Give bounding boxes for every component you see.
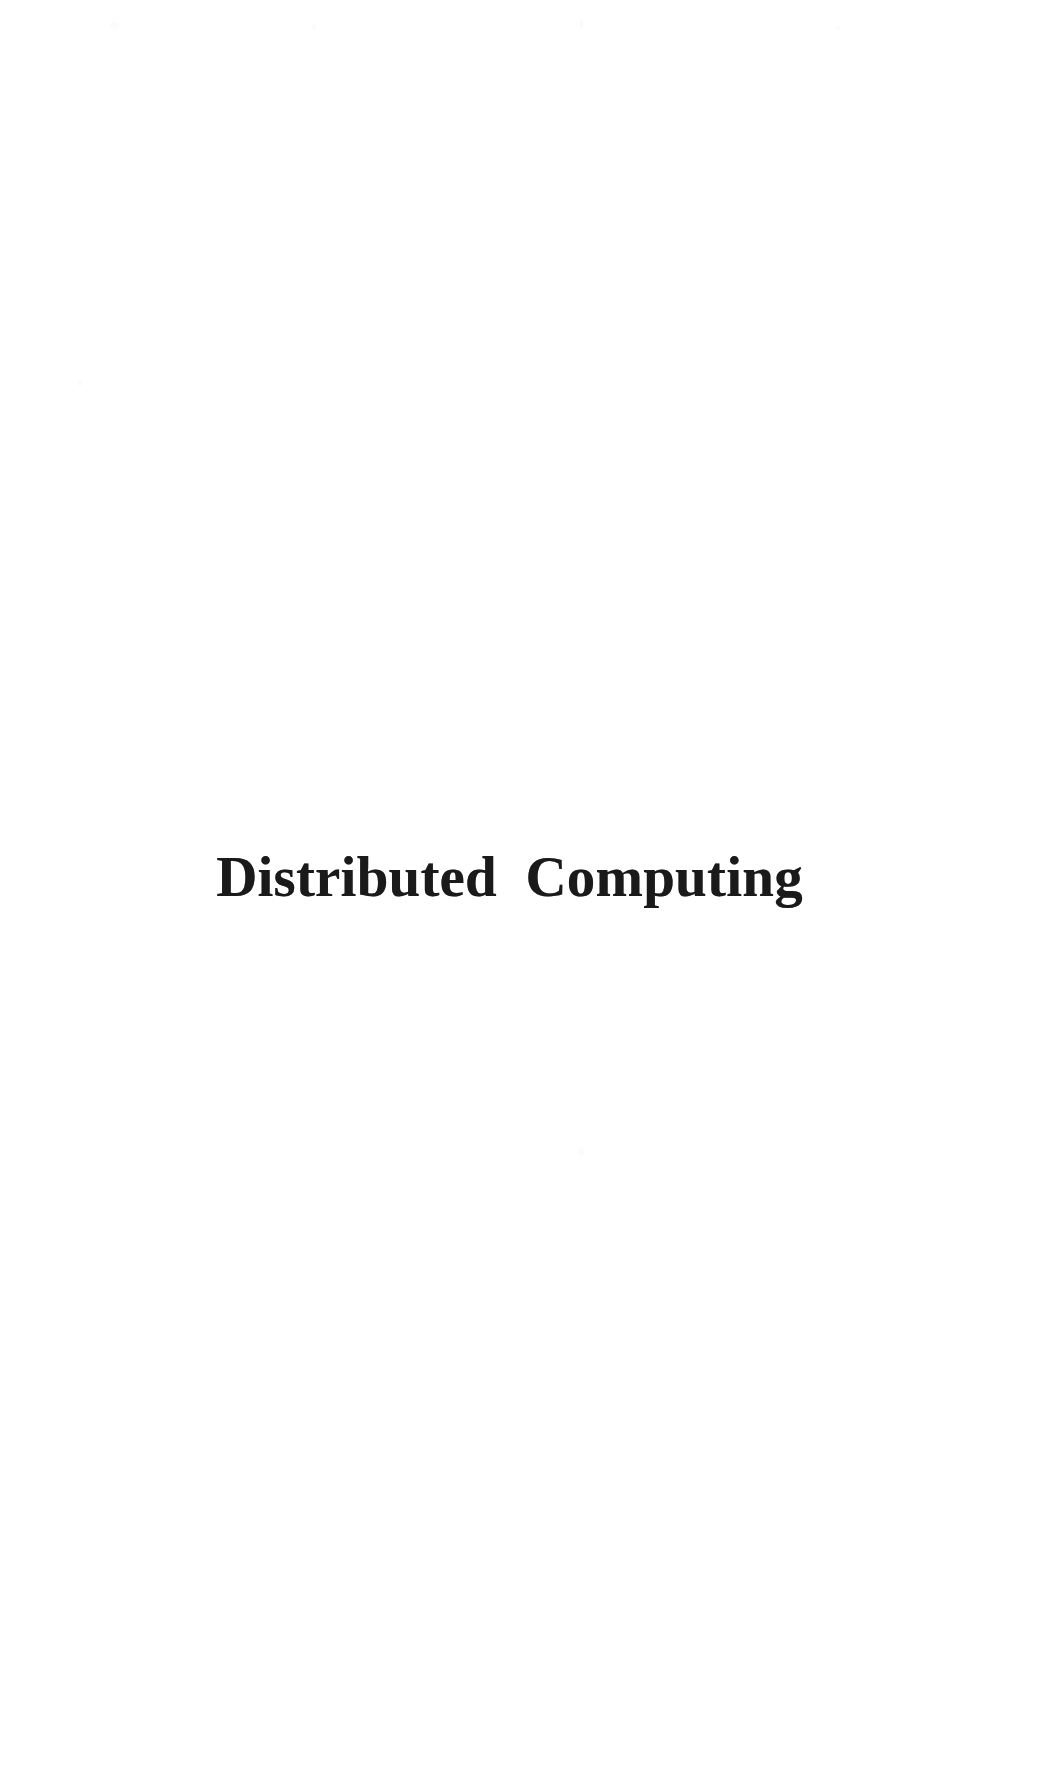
scan-speck-icon [110, 22, 119, 29]
page-title: Distributed Computing [0, 848, 1019, 905]
scan-speck-icon [578, 1148, 585, 1155]
page-title-text: Distributed Computing [216, 848, 803, 905]
scan-speck-icon [580, 20, 583, 29]
scan-speck-icon [78, 380, 82, 386]
document-page: Distributed Computing [0, 0, 1064, 1767]
scan-speck-icon [312, 24, 316, 30]
scan-speck-icon [836, 26, 840, 31]
